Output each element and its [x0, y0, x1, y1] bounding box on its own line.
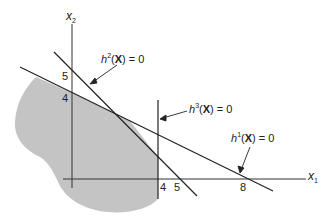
x1-tick-8: 8: [240, 182, 246, 193]
x1-axis-label: x1: [308, 170, 318, 184]
h2-sup: 2: [107, 52, 111, 59]
x1-tick-5: 5: [174, 182, 180, 193]
h3-rhs: = 0: [217, 103, 233, 115]
x2-axis-label: x2: [66, 10, 76, 24]
h3-arrow-icon: [160, 111, 187, 121]
constraint-diagram: [0, 0, 333, 219]
h1-arrow-icon: [238, 147, 250, 173]
h2-label: h2(X) = 0: [101, 54, 144, 65]
h3-sup: 3: [195, 102, 199, 109]
x1-tick-4: 4: [160, 182, 166, 193]
h1-label: h1(X) = 0: [231, 133, 274, 144]
x2-label-sub: 2: [72, 17, 76, 24]
x2-tick-4: 4: [62, 93, 68, 104]
h1-rhs: = 0: [259, 132, 275, 144]
feasible-region: [15, 77, 158, 212]
h2-rhs: = 0: [129, 53, 145, 65]
x1-label-sub: 1: [314, 177, 318, 184]
h1-sup: 1: [237, 131, 241, 138]
h2-arrow-icon: [90, 65, 117, 84]
x2-tick-5: 5: [62, 71, 68, 82]
h3-arg: X: [203, 103, 210, 115]
h1-arg: X: [245, 132, 252, 144]
h2-arg: X: [115, 53, 122, 65]
h3-label: h3(X) = 0: [189, 104, 232, 115]
